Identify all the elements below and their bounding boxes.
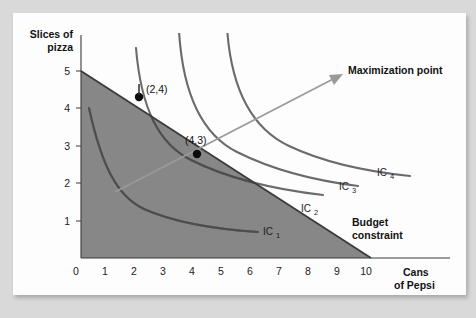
data-point-2-4-label: (2,4) [146, 83, 168, 95]
y-tick-label-4: 4 [64, 102, 70, 114]
x-tick-label-6: 6 [247, 265, 253, 277]
x-tick-label-10: 10 [360, 265, 372, 277]
y-axis-title-line2: pizza [47, 41, 73, 53]
data-point-4-3-label: (4,3) [185, 134, 207, 146]
y-tick-label-5: 5 [64, 65, 70, 77]
svg-text:1: 1 [276, 231, 280, 240]
svg-text:4: 4 [390, 172, 394, 181]
x-tick-label-0: 0 [73, 265, 79, 277]
budget-constraint-label-line1: Budget [352, 216, 389, 228]
indifference-curve-ic4 [227, 27, 410, 176]
ic-label-4: IC 4 [377, 167, 394, 181]
svg-text:2: 2 [314, 208, 318, 217]
y-tick-label-1: 1 [64, 215, 70, 227]
x-tick-label-5: 5 [218, 265, 224, 277]
y-tick-label-2: 2 [64, 177, 70, 189]
svg-text:3: 3 [352, 186, 356, 195]
maximization-point-label: Maximization point [348, 64, 443, 76]
figure-card: 1 2 3 4 5 0 1 2 3 4 5 6 7 8 9 10 Slices … [13, 13, 466, 295]
svg-text:IC: IC [339, 181, 349, 192]
economics-indifference-curve-chart: 1 2 3 4 5 0 1 2 3 4 5 6 7 8 9 10 Slices … [13, 13, 466, 295]
svg-text:IC: IC [377, 167, 387, 178]
y-tick-label-3: 3 [64, 140, 70, 152]
x-axis-title-line1: Cans [403, 266, 429, 278]
x-tick-label-8: 8 [305, 265, 311, 277]
data-point-4-3 [193, 150, 201, 158]
x-axis-title-line2: of Pepsi [394, 279, 435, 291]
x-tick-label-4: 4 [189, 265, 195, 277]
x-tick-label-9: 9 [334, 265, 340, 277]
x-tick-label-1: 1 [102, 265, 108, 277]
budget-constraint-label-line2: constraint [352, 229, 403, 241]
x-tick-label-3: 3 [160, 265, 166, 277]
x-tick-label-7: 7 [276, 265, 282, 277]
svg-text:IC: IC [301, 203, 311, 214]
svg-text:IC: IC [263, 226, 273, 237]
x-tick-label-2: 2 [131, 265, 137, 277]
y-axis-title-line1: Slices of [30, 28, 74, 40]
ic-label-3: IC 3 [339, 181, 356, 195]
indifference-curve-ic4-shaded [227, 27, 410, 176]
